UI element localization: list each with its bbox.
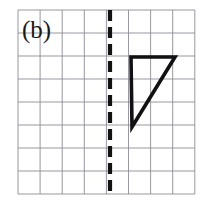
figure-panel-b: (b) xyxy=(0,0,207,201)
panel-label: (b) xyxy=(22,17,51,42)
right-triangle-shape xyxy=(131,57,175,127)
